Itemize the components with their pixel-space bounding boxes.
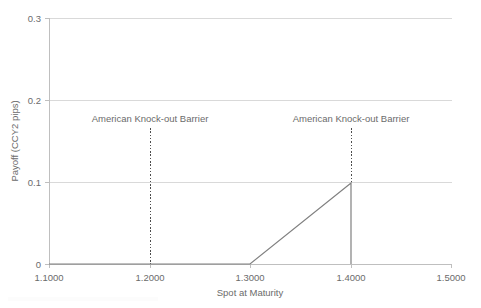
barrier-label-left: American Knock-out Barrier [92, 113, 209, 124]
x-tick-label-1.4000: 1.4000 [336, 272, 365, 283]
y-tick-label-0.3: 0.3 [28, 13, 41, 24]
y-tick-label-0.2: 0.2 [28, 95, 41, 106]
x-tick-label-1.2000: 1.2000 [135, 272, 164, 283]
y-tick-label-0: 0 [36, 259, 41, 270]
page-artifact [8, 297, 158, 301]
x-tick-label-1.1000: 1.1000 [34, 272, 63, 283]
y-axis-title: Payoff (CCY2 pips) [9, 100, 20, 181]
x-tick-label-1.5000: 1.5000 [436, 272, 465, 283]
y-tick-label-0.1: 0.1 [28, 177, 41, 188]
chart-canvas: 0.3 0.2 0.1 0 1.1000 1.2000 1.3000 1.400… [0, 0, 481, 308]
plot-area-background [49, 18, 452, 264]
payoff-chart: 0.3 0.2 0.1 0 1.1000 1.2000 1.3000 1.400… [0, 0, 481, 308]
barrier-label-right: American Knock-out Barrier [293, 113, 410, 124]
x-axis-title: Spot at Maturity [217, 287, 284, 298]
x-tick-label-1.3000: 1.3000 [235, 272, 264, 283]
